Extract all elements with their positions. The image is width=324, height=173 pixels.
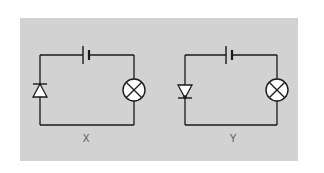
circuit-y: [178, 46, 288, 125]
circuit-y-label: Y: [230, 133, 237, 144]
diode-icon: [33, 83, 47, 97]
battery-icon: [226, 46, 232, 64]
battery-icon: [83, 46, 89, 64]
diode-icon: [178, 85, 192, 98]
circuit-x-label: X: [83, 133, 90, 144]
lamp-icon: [266, 79, 288, 101]
lamp-icon: [123, 79, 145, 101]
circuit-x: [33, 46, 145, 125]
circuit-diagram: X Y: [0, 0, 324, 173]
